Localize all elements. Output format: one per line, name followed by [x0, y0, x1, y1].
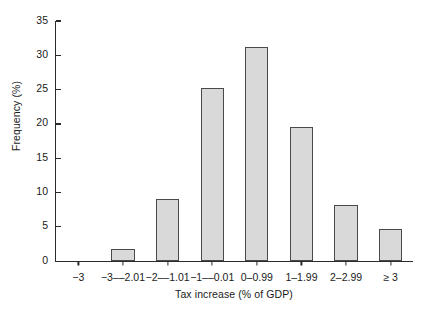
- bar-category-0: −3: [56, 21, 101, 261]
- bar-category-7: ≥ 3: [368, 21, 413, 261]
- bar-category-3: −1––0.01: [190, 21, 235, 261]
- histogram-figure: Frequency (%) 35 30 25 20 15 10 5: [0, 0, 428, 312]
- bar-category-5: 1–1.99: [279, 21, 324, 261]
- x-tick-mark: [78, 261, 79, 266]
- bar-value-1[interactable]: [111, 249, 134, 261]
- bar-value-4[interactable]: [245, 47, 268, 261]
- y-axis-title: Frequency (%): [10, 56, 22, 176]
- y-tick-label-20: 20: [36, 116, 48, 128]
- bar-series: −3 −3––2.01 −2––1.01 −1––0.01 0–0.99: [56, 21, 413, 261]
- x-tick-mark: [390, 261, 391, 266]
- plot-area: 35 30 25 20 15 10 5 0: [55, 21, 413, 262]
- y-tick-label-30: 30: [36, 48, 48, 60]
- y-tick-label-35: 35: [36, 14, 48, 26]
- y-tick-label-10: 10: [36, 185, 48, 197]
- bar-value-6[interactable]: [334, 205, 357, 261]
- x-tick-label-5: 1–1.99: [285, 271, 317, 283]
- y-tick-label-0: 0: [42, 254, 48, 266]
- x-tick-mark: [301, 261, 302, 266]
- x-tick-label-4: 0–0.99: [241, 271, 273, 283]
- x-tick-label-3: −1––0.01: [190, 271, 234, 283]
- bar-category-1: −3––2.01: [101, 21, 146, 261]
- bar-value-3[interactable]: [201, 88, 224, 261]
- x-tick-mark: [167, 261, 168, 266]
- x-tick-label-2: −2––1.01: [146, 271, 190, 283]
- bar-value-5[interactable]: [290, 127, 313, 261]
- y-tick-label-25: 25: [36, 82, 48, 94]
- x-tick-mark: [345, 261, 346, 266]
- y-tick-label-15: 15: [36, 151, 48, 163]
- y-tick-label-5: 5: [42, 219, 48, 231]
- x-tick-label-0: −3: [72, 271, 84, 283]
- x-tick-label-7: ≥ 3: [383, 271, 398, 283]
- x-axis-title: Tax increase (% of GDP): [54, 288, 414, 300]
- x-tick-label-6: 2–2.99: [330, 271, 362, 283]
- bar-value-7[interactable]: [379, 229, 402, 261]
- x-tick-mark: [122, 261, 123, 266]
- x-tick-label-1: −3––2.01: [101, 271, 145, 283]
- bar-category-6: 2–2.99: [324, 21, 369, 261]
- x-tick-mark: [256, 261, 257, 266]
- x-tick-mark: [212, 261, 213, 266]
- bar-value-2[interactable]: [156, 199, 179, 261]
- bar-category-2: −2––1.01: [145, 21, 190, 261]
- bar-category-4: 0–0.99: [235, 21, 280, 261]
